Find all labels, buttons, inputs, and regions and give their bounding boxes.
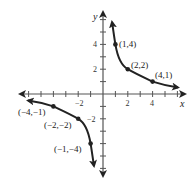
x-axis-label: x	[179, 98, 185, 109]
point-label-neg4-neg1: (−4,−1)	[18, 107, 45, 117]
y-tick-label-4: 4	[93, 40, 97, 49]
curve-branch-positive-top	[112, 22, 115, 44]
y-tick-label-neg2: −2	[87, 115, 96, 124]
hyperbola-graph: −2 2 4 4 2 −2 y x (1,4) (2,2) (4,1) (−4,…	[0, 0, 193, 180]
point-label-4-1: (4,1)	[155, 70, 172, 80]
curve-branch-negative-bottom	[91, 144, 94, 166]
x-tick-label-2: 2	[126, 99, 130, 108]
y-axis-label: y	[92, 11, 98, 22]
y-tick-label-2: 2	[93, 65, 97, 74]
point-label-neg2-neg2: (−2,−2)	[44, 120, 71, 130]
point-label-1-4: (1,4)	[119, 39, 136, 49]
point-label-2-2: (2,2)	[131, 60, 148, 70]
point-label-neg1-neg4: (−1,−4)	[54, 144, 81, 154]
x-tick-label-4: 4	[150, 99, 154, 108]
x-tick-label-neg2: −2	[75, 99, 84, 108]
